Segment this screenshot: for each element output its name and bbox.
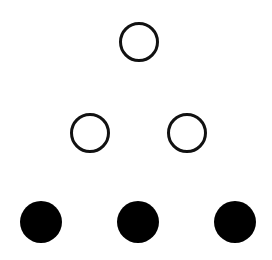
open-circle-middle-1 [70,113,110,153]
circle-triangle-diagram [0,0,272,260]
open-circle-top-1 [119,22,159,62]
filled-circle-bottom-2 [117,201,159,243]
filled-circle-bottom-1 [20,201,62,243]
open-circle-middle-2 [167,113,207,153]
filled-circle-bottom-3 [214,201,256,243]
